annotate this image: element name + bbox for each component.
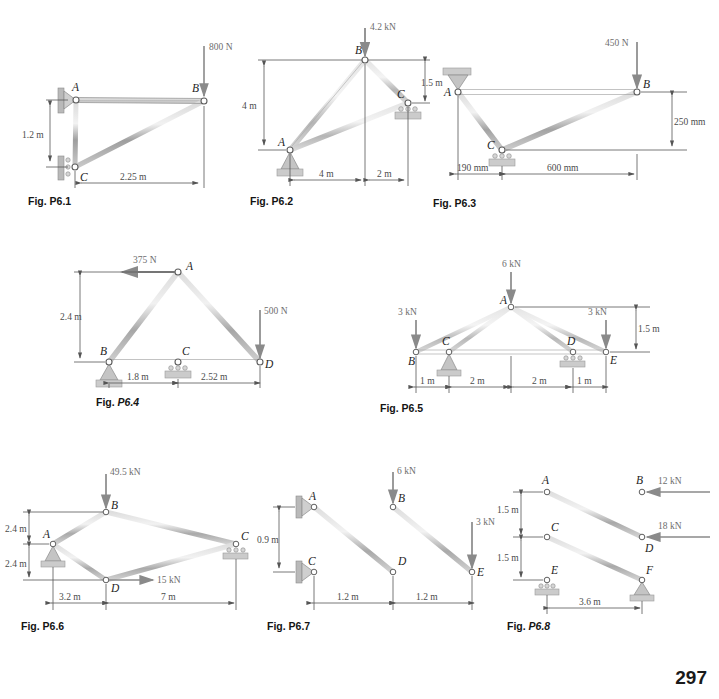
load-label-12kN: 12 kN <box>658 476 682 486</box>
figure-caption-p6-1: Fig. P6.1 <box>28 195 238 207</box>
dimension-label-250mm: 250 mm <box>674 117 706 127</box>
node-label-B: B <box>636 474 643 486</box>
dimension-label-4m-horizontal: 4 m <box>319 169 334 179</box>
node-label-F: F <box>645 564 654 576</box>
node-label-C: C <box>551 521 559 533</box>
figure-p6-2: A B C 4.2 kN 4 m 1.5 m 4 m 2 m Fig. P6.2 <box>240 18 455 207</box>
node-label-E: E <box>476 566 484 578</box>
node-label-C: C <box>397 88 405 100</box>
caption-prefix: Fig. <box>507 620 529 632</box>
caption-number: P6.5 <box>402 402 424 414</box>
dimension-label-1-5m: 1.5 m <box>638 324 660 334</box>
node-label-D: D <box>566 335 576 347</box>
caption-prefix: Fig. <box>433 197 455 209</box>
support-roller-C <box>223 548 248 559</box>
node-label-B: B <box>355 44 362 56</box>
dimension-label-0-9m: 0.9 m <box>257 535 279 545</box>
node-label-A: A <box>541 474 550 486</box>
support-pin-C <box>437 354 461 376</box>
figure-caption-p6-5: Fig. P6.5 <box>380 402 668 414</box>
node-label-A: A <box>308 490 317 502</box>
dimension-label-2-4m: 2.4 m <box>60 312 82 322</box>
node-label-C: C <box>442 335 450 347</box>
node-label-A: A <box>443 86 452 98</box>
figure-caption-p6-7: Fig. P6.7 <box>267 620 510 632</box>
dimension-label-4m-vertical: 4 m <box>242 101 257 111</box>
dimension-label-1-8m: 1.8 m <box>127 372 149 382</box>
caption-number: P6.6 <box>43 620 65 632</box>
caption-prefix: Fig. <box>250 195 272 207</box>
node-label-A: A <box>42 528 51 540</box>
dimension-1-5m <box>515 307 650 352</box>
node-label-E: E <box>609 354 617 366</box>
node-label-E: E <box>550 564 558 576</box>
dimension-250mm <box>506 92 687 150</box>
dimension-label-2-4m-top: 2.4 m <box>5 524 27 534</box>
node-label-D: D <box>110 582 120 594</box>
dimension-label-1-2m: 1.2 m <box>22 130 44 140</box>
caption-number: P6.4 <box>118 396 140 408</box>
textbook-page: A B C 800 N 1.2 m 2.25 m Fig. P6.1 <box>0 0 719 699</box>
dimension-label-1-2m-right: 1.2 m <box>416 592 438 602</box>
caption-number: P6.7 <box>289 620 311 632</box>
load-label-6kN: 6 kN <box>502 259 521 269</box>
figure-p6-1: A B C 800 N 1.2 m 2.25 m Fig. P6.1 <box>8 28 238 207</box>
figure-caption-p6-6: Fig. P6.6 <box>21 620 260 632</box>
dimension-label-3-2m: 3.2 m <box>59 592 81 602</box>
load-label-500N: 500 N <box>264 306 288 316</box>
caption-prefix: Fig. <box>96 396 118 408</box>
dimension-label-600mm: 600 mm <box>547 163 579 173</box>
page-number: 297 <box>675 667 707 689</box>
figure-p6-5: A B C D E 6 kN 3 kN 3 kN 1.5 m 1 m 2 m 2… <box>378 258 668 414</box>
load-label-18kN: 18 kN <box>658 521 682 531</box>
figure-caption-p6-3: Fig. P6.3 <box>433 197 710 209</box>
node-label-A: A <box>277 136 286 148</box>
truss-members <box>314 507 472 572</box>
caption-prefix: Fig. <box>28 195 50 207</box>
support-roller-C <box>489 154 515 166</box>
node-label-C: C <box>241 530 249 542</box>
node-label-A: A <box>185 260 194 272</box>
load-label-6kN: 6 kN <box>397 466 416 476</box>
node-label-A: A <box>499 294 508 306</box>
load-label-3kN: 3 kN <box>476 517 495 527</box>
caption-number: P6.2 <box>272 195 294 207</box>
truss-members <box>458 92 637 150</box>
dimension-label-2-25m: 2.25 m <box>120 172 147 182</box>
dimension-label-2-4m-bottom: 2.4 m <box>5 559 27 569</box>
dimension-label-2m-left: 2 m <box>470 376 485 386</box>
dimension-label-2m-right: 2 m <box>532 376 547 386</box>
node-label-B: B <box>398 492 405 504</box>
node-label-D: D <box>264 358 274 370</box>
support-roller-C <box>165 366 191 378</box>
load-label-375N: 375 N <box>133 255 157 265</box>
dimension-1-2m <box>46 100 68 167</box>
node-label-C: C <box>182 345 190 357</box>
caption-prefix: Fig. <box>380 402 402 414</box>
dimension-label-1-2m-left: 1.2 m <box>337 592 359 602</box>
node-label-B: B <box>192 82 199 94</box>
load-label-4-2kN: 4.2 kN <box>370 22 396 32</box>
figure-p6-4: A B C D 375 N 500 N 2.4 m 1.8 m 2.52 m F… <box>60 252 345 408</box>
dimension-label-2-52m: 2.52 m <box>201 372 228 382</box>
support-pin-F <box>630 582 654 601</box>
caption-number: P6.3 <box>455 197 477 209</box>
dimension-2-4m <box>74 272 175 362</box>
dimension-horizontal-guides <box>51 559 236 610</box>
node-label-B: B <box>408 355 415 367</box>
figure-p6-3: A B C 450 N 250 mm 190 mm 600 mm Fig. P6… <box>425 30 710 209</box>
figure-p6-7: A B C D E 6 kN 3 kN 0.9 m 1.2 m 1.2 m Fi… <box>265 462 510 632</box>
caption-number: P6.1 <box>50 195 72 207</box>
node-label-D: D <box>397 555 407 567</box>
caption-number: P6.8 <box>529 620 551 632</box>
dimension-label-190mm: 190 mm <box>457 163 489 173</box>
figure-caption-p6-8: Fig. P6.8 <box>507 620 719 632</box>
node-label-C: C <box>80 171 88 183</box>
load-label-15kN: 15 kN <box>157 575 181 585</box>
load-label-450N: 450 N <box>605 38 629 48</box>
dimension-4m-vertical <box>258 60 362 150</box>
node-label-B: B <box>643 78 650 90</box>
caption-prefix: Fig. <box>267 620 289 632</box>
truss-members <box>290 60 408 150</box>
truss-members <box>75 100 204 167</box>
